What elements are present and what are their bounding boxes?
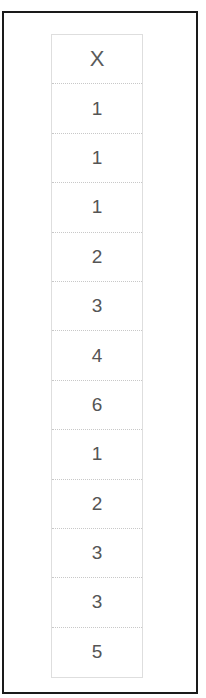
table-cell: 3: [52, 282, 142, 331]
column-header-x: X: [52, 35, 142, 84]
table-cell: 2: [52, 233, 142, 282]
table-cell: 3: [52, 578, 142, 627]
table-cell: 1: [52, 134, 142, 183]
table-cell: 1: [52, 430, 142, 479]
table-cell: 1: [52, 84, 142, 133]
table-cell: 1: [52, 183, 142, 232]
table-cell: 3: [52, 529, 142, 578]
data-table: X 1 1 1 2 3 4 6 1 2 3 3 5: [51, 34, 143, 678]
table-cell: 4: [52, 331, 142, 380]
table-cell: 5: [52, 628, 142, 677]
table-cell: 2: [52, 480, 142, 529]
table-cell: 6: [52, 381, 142, 430]
